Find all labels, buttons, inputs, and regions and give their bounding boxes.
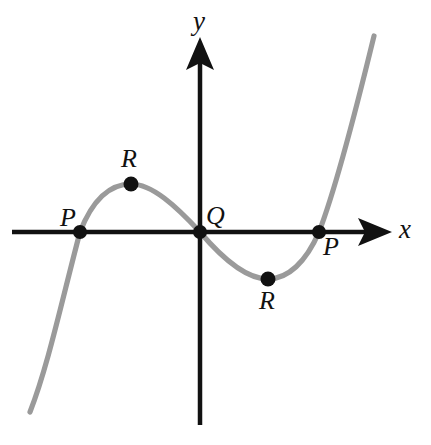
label-local-maximum: R: [121, 146, 137, 172]
point-local-minimum: [261, 272, 276, 287]
label-local-minimum: R: [259, 288, 275, 314]
label-left-root: P: [60, 205, 76, 231]
y-axis-label: y: [193, 8, 205, 35]
cubic-curve-figure: y x P Q P R R: [0, 0, 431, 445]
x-axis-label: x: [399, 216, 411, 243]
point-local-maximum: [124, 177, 139, 192]
label-origin-root: Q: [206, 203, 225, 229]
point-origin-root: [193, 225, 207, 239]
label-right-root: P: [323, 234, 339, 260]
